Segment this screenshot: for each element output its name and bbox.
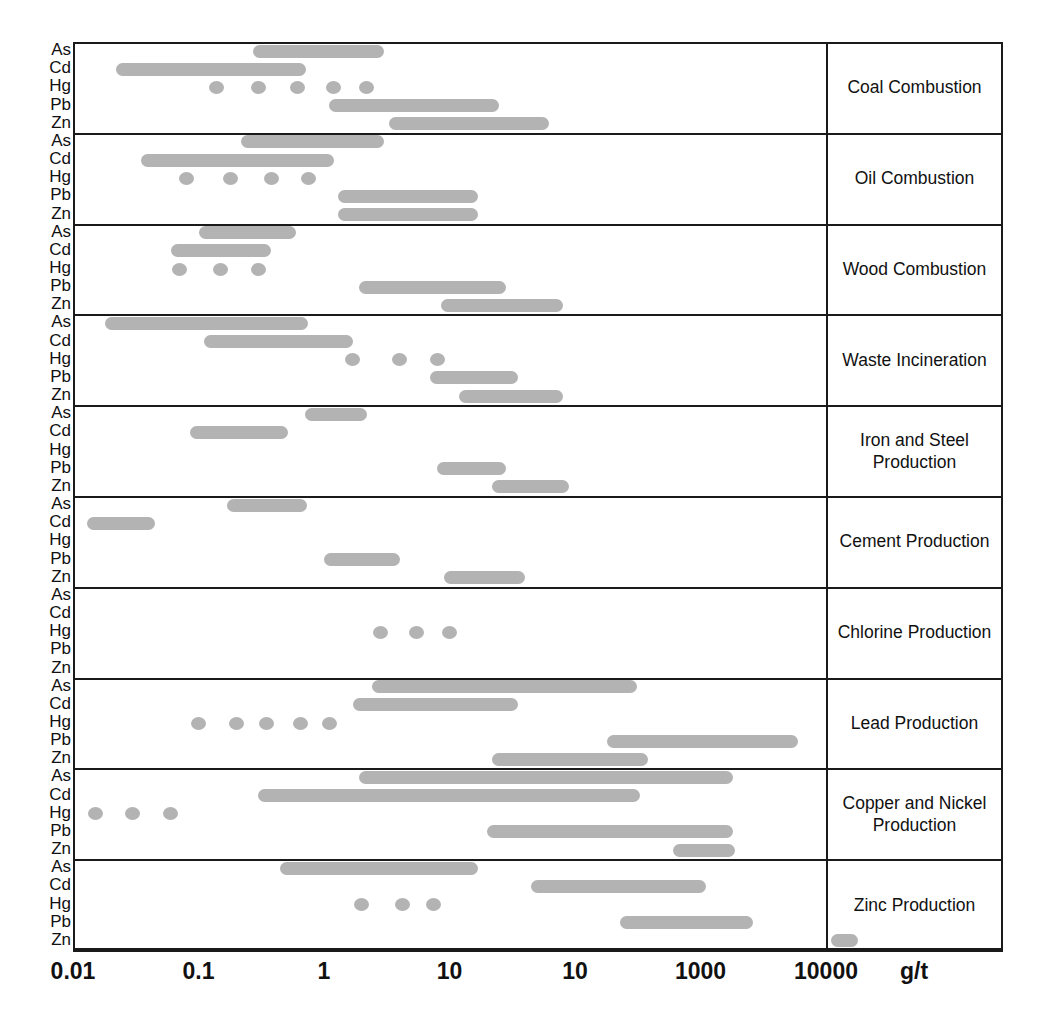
metal-label-hg: Hg [11, 77, 71, 95]
metal-label-as: As [11, 495, 71, 513]
data-point-dot [223, 172, 238, 185]
metal-label-cd: Cd [11, 332, 71, 350]
x-tick-label: 1 [254, 958, 394, 985]
x-tick-label: 1000 [631, 958, 771, 985]
category-label-text: Copper and Nickel Production [826, 792, 1003, 836]
metal-label-zn: Zn [11, 114, 71, 132]
metal-label-pb: Pb [11, 550, 71, 568]
x-tick-label: 10000 [756, 958, 896, 985]
data-point-dot [264, 172, 279, 185]
data-point-dot [251, 81, 266, 94]
category-label-text: Wood Combustion [843, 258, 987, 280]
category-label-chlorine-production: Chlorine Production [826, 587, 1003, 678]
range-bar [116, 63, 306, 76]
range-bar [359, 281, 506, 294]
range-bar [253, 45, 384, 58]
category-label-text: Iron and Steel Production [826, 429, 1003, 473]
category-label-text: Cement Production [840, 530, 990, 552]
category-label-text: Coal Combustion [847, 76, 981, 98]
metal-label-hg: Hg [11, 441, 71, 459]
metal-label-pb: Pb [11, 731, 71, 749]
category-label-text: Lead Production [851, 712, 978, 734]
range-bar [492, 480, 569, 493]
range-bar [492, 753, 647, 766]
metal-label-cd: Cd [11, 604, 71, 622]
metal-label-hg: Hg [11, 259, 71, 277]
range-bar [280, 862, 478, 875]
data-point-dot [259, 717, 274, 730]
metal-label-zn: Zn [11, 749, 71, 767]
metal-label-pb: Pb [11, 459, 71, 477]
metal-label-pb: Pb [11, 640, 71, 658]
data-point-dot [301, 172, 316, 185]
metal-label-cd: Cd [11, 876, 71, 894]
range-bar [831, 934, 858, 947]
metal-label-as: As [11, 677, 71, 695]
range-bar [324, 553, 400, 566]
range-bar [141, 154, 334, 167]
metal-label-zn: Zn [11, 568, 71, 586]
category-label-oil-combustion: Oil Combustion [826, 133, 1003, 224]
metal-label-pb: Pb [11, 277, 71, 295]
data-point-dot [442, 626, 457, 639]
metal-label-as: As [11, 132, 71, 150]
metal-label-cd: Cd [11, 241, 71, 259]
category-label-cement-production: Cement Production [826, 496, 1003, 587]
metal-label-hg: Hg [11, 804, 71, 822]
range-bar [444, 571, 525, 584]
range-bar [359, 771, 733, 784]
range-bar [487, 825, 732, 838]
data-point-dot [293, 717, 308, 730]
data-point-dot [409, 626, 424, 639]
category-label-text: Zinc Production [854, 894, 976, 916]
data-point-dot [191, 717, 206, 730]
metal-label-cd: Cd [11, 513, 71, 531]
metal-label-pb: Pb [11, 913, 71, 931]
metal-label-cd: Cd [11, 695, 71, 713]
data-point-dot [88, 807, 103, 820]
category-label-text: Waste Incineration [842, 349, 986, 371]
data-point-dot [251, 263, 266, 276]
category-label-wood-combustion: Wood Combustion [826, 224, 1003, 315]
data-point-dot [229, 717, 244, 730]
metal-label-pb: Pb [11, 822, 71, 840]
range-bar [87, 517, 155, 530]
metal-label-hg: Hg [11, 713, 71, 731]
metal-label-pb: Pb [11, 368, 71, 386]
metal-label-as: As [11, 586, 71, 604]
metal-label-cd: Cd [11, 150, 71, 168]
metal-label-hg: Hg [11, 531, 71, 549]
category-label-copper-and-nickel-production: Copper and Nickel Production [826, 768, 1003, 859]
range-bar [389, 117, 549, 130]
metal-label-zn: Zn [11, 840, 71, 858]
category-label-iron-and-steel-production: Iron and Steel Production [826, 405, 1003, 496]
x-axis-line [73, 950, 1003, 952]
category-label-coal-combustion: Coal Combustion [826, 42, 1003, 133]
metal-label-as: As [11, 313, 71, 331]
range-bar [459, 390, 562, 403]
metal-label-pb: Pb [11, 96, 71, 114]
range-bar [531, 880, 705, 893]
category-label-waste-incineration: Waste Incineration [826, 314, 1003, 405]
range-bar [620, 916, 752, 929]
category-label-text: Chlorine Production [838, 621, 992, 643]
range-bar [430, 371, 518, 384]
data-point-dot [322, 717, 337, 730]
range-bar [105, 317, 308, 330]
x-tick-label: 10 [380, 958, 520, 985]
category-label-text: Oil Combustion [855, 167, 975, 189]
data-point-dot [373, 626, 388, 639]
data-point-dot [172, 263, 187, 276]
metal-label-zn: Zn [11, 931, 71, 949]
metal-label-cd: Cd [11, 59, 71, 77]
metal-label-pb: Pb [11, 186, 71, 204]
metal-label-as: As [11, 767, 71, 785]
range-bar [353, 698, 518, 711]
metal-label-zn: Zn [11, 205, 71, 223]
metal-label-zn: Zn [11, 659, 71, 677]
range-bar [305, 408, 367, 421]
metal-label-zn: Zn [11, 386, 71, 404]
range-bar [673, 844, 736, 857]
metal-label-hg: Hg [11, 895, 71, 913]
range-bar [329, 99, 499, 112]
